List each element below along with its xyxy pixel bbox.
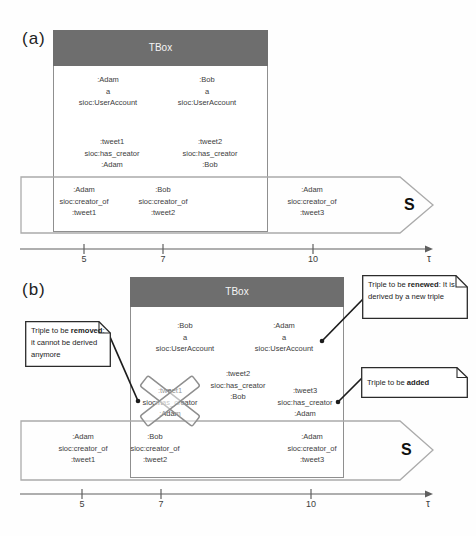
axis-a-tick-10: 10 [308, 254, 318, 264]
stream-a-label: S [404, 196, 415, 214]
triple-a-adam-useraccount: :Adamasioc:UserAccount [53, 74, 163, 109]
triple-a-bob-useraccount: :Bobasioc:UserAccount [152, 74, 262, 109]
axis-b-tau-label: τ [426, 498, 430, 509]
axis-arrowhead-icon [425, 491, 433, 498]
stream-a-triple-tweet3: :Adamsioc:creator_of:tweet3 [257, 184, 367, 219]
time-axis-a [20, 244, 433, 254]
triple-b-tweet1-hascreator-removed: :tweet1sioc:has_creator:Adam [115, 385, 225, 420]
axis-b-tick-7: 7 [158, 499, 163, 509]
axis-b-tick-5: 5 [79, 499, 84, 509]
panel-b-label: (b) [22, 280, 46, 300]
triple-a-tweet1-hascreator: :tweet1sioc:has_creator:Adam [57, 136, 167, 171]
axis-b-tick-10: 10 [306, 499, 316, 509]
stream-b-triple-tweet2: :Bobsioc:creator_of:tweet2 [100, 431, 210, 466]
stream-a-triple-tweet2: :Bobsioc:creator_of:tweet2 [108, 184, 218, 219]
callout-removed: Triple to be removed: it cannot be deriv… [25, 321, 111, 367]
triple-b-adam-useraccount: :Adamasioc:UserAccount [229, 320, 339, 355]
axis-a-tau-label: τ [427, 253, 431, 264]
triple-b-bob-useraccount: :Bobasioc:UserAccount [130, 320, 240, 355]
callout-renewed-text: Triple to be renewed: It is derived by a… [362, 275, 468, 303]
stream-b-triple-tweet3: :Adamsioc:creator_of:tweet3 [257, 431, 367, 466]
callout-removed-text: Triple to be removed: it cannot be deriv… [25, 321, 111, 360]
axis-arrowhead-icon [425, 246, 433, 253]
callout-renewed: Triple to be renewed: It is derived by a… [362, 275, 468, 319]
figure-canvas: (a) TBox (b) TBox :Adamasioc:UserAccount… [0, 0, 476, 536]
time-axis-b [20, 489, 433, 499]
panel-a-label: (a) [22, 29, 46, 49]
callout-added-text: Triple to be added [361, 367, 468, 389]
callout-added: Triple to be added [361, 367, 468, 398]
triple-b-tweet3-hascreator-added: :tweet3sioc:has_creator:Adam [250, 385, 360, 420]
stream-b-label: S [401, 441, 412, 459]
tbox-b-header: TBox [130, 277, 344, 307]
tbox-a-header: TBox [53, 30, 268, 66]
axis-a-tick-5: 5 [81, 254, 86, 264]
axis-a-tick-7: 7 [160, 254, 165, 264]
triple-a-tweet2-hascreator: :tweet2sioc:has_creator:Bob [155, 136, 265, 171]
